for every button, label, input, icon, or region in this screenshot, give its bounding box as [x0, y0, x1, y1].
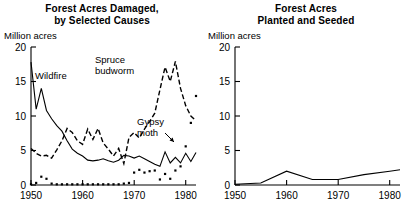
gypsy-moth-datapoint — [138, 169, 140, 171]
gypsy-moth-datapoint — [123, 183, 125, 185]
right-y-ticklabel-15: 15 — [219, 76, 231, 87]
gypsy-moth-datapoint — [71, 183, 73, 185]
gypsy-moth-datapoint — [87, 183, 89, 185]
right-x-ticklabel-1980: 1980 — [379, 190, 402, 201]
series-line-planted-seeded — [235, 170, 400, 184]
gypsy-moth-datapoint — [185, 145, 187, 147]
left-chart-plot: 0 5 10 15 20 1950 1960 1970 1980 Wildfir… — [0, 0, 204, 207]
right-y-ticks — [235, 47, 240, 185]
right-x-ticklabel-1970: 1970 — [327, 190, 350, 201]
chart-panel-planted: Forest Acres Planted and Seeded Million … — [204, 0, 408, 207]
gypsy-moth-datapoint — [66, 183, 68, 185]
gypsy-moth-datapoint — [107, 183, 109, 185]
gypsy-moth-datapoint — [164, 173, 166, 175]
gypsy-moth-datapoint — [195, 95, 197, 97]
gypsy-moth-datapoint — [45, 178, 47, 180]
left-y-ticklabel-5: 5 — [20, 145, 26, 156]
right-y-ticklabel-10: 10 — [219, 111, 231, 122]
left-x-ticklabel-1970: 1970 — [123, 190, 146, 201]
right-y-ticklabel-20: 20 — [219, 42, 231, 53]
gypsy-moth-datapoint — [30, 183, 32, 185]
gypsy-moth-datapoint — [143, 171, 145, 173]
forestry-charts-figure: Forest Acres Damaged, by Selected Causes… — [0, 0, 408, 207]
gypsy-moth-datapoint — [35, 182, 37, 184]
left-x-ticklabel-1960: 1960 — [71, 190, 94, 201]
left-x-ticklabel-1980: 1980 — [175, 190, 198, 201]
gypsy-moth-datapoint — [102, 183, 104, 185]
gypsy-moth-datapoint — [92, 183, 94, 185]
gypsy-moth-datapoint — [51, 183, 53, 185]
gypsy-moth-datapoint — [40, 176, 42, 178]
gypsy-moth-datapoint — [159, 178, 161, 180]
gypsy-moth-datapoint — [118, 183, 120, 185]
series-label-gypsy-moth-line1: Gypsy — [137, 116, 164, 127]
right-x-ticklabel-1960: 1960 — [275, 190, 298, 201]
left-y-ticklabel-20: 20 — [15, 42, 27, 53]
gypsy-moth-datapoint — [128, 182, 130, 184]
series-label-spruce-budworm-line1: Spruce — [95, 54, 125, 65]
gypsy-moth-datapoint — [76, 183, 78, 185]
gypsy-moth-datapoint — [179, 165, 181, 167]
right-chart-plot: 0 5 10 15 20 1950 1960 1970 1980 — [204, 0, 408, 207]
gypsy-moth-datapoint — [81, 183, 83, 185]
gypsy-moth-datapoint — [56, 183, 58, 185]
left-y-ticklabel-10: 10 — [15, 111, 27, 122]
right-y-ticklabel-5: 5 — [224, 145, 230, 156]
series-label-spruce-budworm-line2: budworm — [95, 65, 134, 76]
gypsy-moth-datapoint — [61, 183, 63, 185]
gypsy-moth-datapoint — [149, 170, 151, 172]
right-x-ticklabel-1950: 1950 — [224, 190, 247, 201]
right-x-ticks — [235, 180, 390, 185]
gypsy-moth-datapoint — [169, 178, 171, 180]
gypsy-moth-datapoint — [112, 183, 114, 185]
left-y-ticklabel-15: 15 — [15, 76, 27, 87]
series-label-gypsy-moth-line2: moth — [137, 127, 158, 138]
chart-panel-damaged: Forest Acres Damaged, by Selected Causes… — [0, 0, 204, 207]
left-x-ticklabel-1950: 1950 — [20, 190, 43, 201]
gypsy-moth-datapoint — [190, 122, 192, 124]
series-label-wildfire: Wildfire — [35, 70, 67, 81]
gypsy-moth-datapoint — [97, 183, 99, 185]
gypsy-moth-datapoint — [174, 169, 176, 171]
gypsy-moth-datapoint — [133, 171, 135, 173]
gypsy-moth-datapoint — [154, 169, 156, 171]
